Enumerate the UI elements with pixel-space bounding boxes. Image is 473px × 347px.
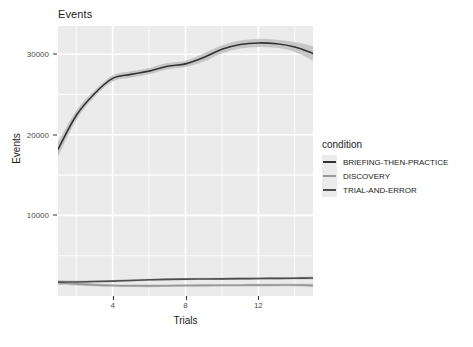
legend-item-label: BRIEFING-THEN-PRACTICE bbox=[343, 158, 448, 167]
x-axis-tick-labels: 4812 bbox=[58, 301, 313, 315]
x-tick-mark bbox=[113, 296, 114, 300]
plot-canvas bbox=[58, 26, 313, 296]
legend-item-label: TRIAL-AND-ERROR bbox=[343, 186, 417, 195]
legend-key-line-icon bbox=[323, 175, 336, 177]
legend-item-0[interactable]: BRIEFING-THEN-PRACTICE bbox=[322, 155, 472, 169]
x-tick-label: 12 bbox=[254, 301, 263, 310]
y-tick-label: 30000 bbox=[27, 50, 49, 59]
legend-item-label: DISCOVERY bbox=[343, 172, 390, 181]
legend-key-swatch bbox=[322, 169, 337, 183]
y-axis-title: Events bbox=[11, 89, 22, 209]
legend-title: condition bbox=[322, 139, 472, 150]
x-tick-label: 4 bbox=[110, 301, 114, 310]
x-tick-label: 8 bbox=[183, 301, 187, 310]
plot-panel bbox=[58, 26, 313, 296]
legend-key-swatch bbox=[322, 183, 337, 197]
y-tick-mark bbox=[53, 215, 57, 216]
legend: condition BRIEFING-THEN-PRACTICEDISCOVER… bbox=[322, 139, 472, 197]
y-tick-label: 20000 bbox=[27, 130, 49, 139]
y-tick-mark bbox=[53, 134, 57, 135]
x-tick-mark bbox=[186, 296, 187, 300]
x-axis-title: Trials bbox=[58, 315, 313, 326]
legend-key-line-icon bbox=[323, 161, 336, 163]
legend-key-line-icon bbox=[323, 189, 336, 191]
chart-figure: Events 100002000030000 4812 Trials Event… bbox=[0, 0, 473, 347]
legend-item-2[interactable]: TRIAL-AND-ERROR bbox=[322, 183, 472, 197]
legend-key-swatch bbox=[322, 155, 337, 169]
y-axis-tick-labels: 100002000030000 bbox=[0, 26, 49, 296]
y-tick-mark bbox=[53, 54, 57, 55]
legend-items: BRIEFING-THEN-PRACTICEDISCOVERYTRIAL-AND… bbox=[322, 155, 472, 197]
y-tick-label: 10000 bbox=[27, 211, 49, 220]
page-title: Events bbox=[58, 8, 92, 20]
legend-item-1[interactable]: DISCOVERY bbox=[322, 169, 472, 183]
x-tick-mark bbox=[258, 296, 259, 300]
